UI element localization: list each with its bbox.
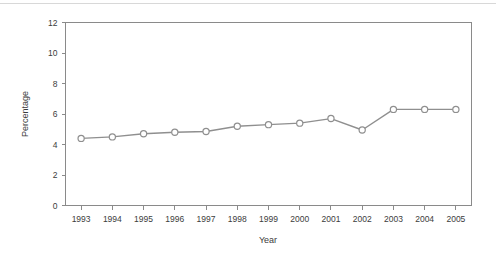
- y-tick-label: 2: [53, 170, 58, 180]
- x-tick-label: 2003: [384, 214, 403, 224]
- x-tick-label: 1994: [103, 214, 122, 224]
- y-tick-label: 6: [53, 109, 58, 119]
- y-tick-label: 0: [53, 201, 58, 211]
- y-tick-label: 4: [53, 140, 58, 150]
- plot-frame: [66, 23, 472, 206]
- line-chart-figure: 024681012 199319941995199619971998199920…: [0, 0, 496, 257]
- y-tick-label: 8: [53, 79, 58, 89]
- data-point-marker: [265, 122, 271, 128]
- data-point-marker: [203, 128, 209, 134]
- x-tick-label: 2000: [290, 214, 309, 224]
- x-axis-title: Year: [259, 235, 277, 245]
- x-tick-label: 1993: [72, 214, 91, 224]
- data-point-marker: [297, 120, 303, 126]
- data-point-marker: [328, 115, 334, 121]
- chart-canvas: 024681012 199319941995199619971998199920…: [0, 0, 496, 257]
- x-tick-label: 1996: [165, 214, 184, 224]
- data-point-marker: [359, 127, 365, 133]
- y-axis-ticks: 024681012: [48, 18, 65, 211]
- x-tick-label: 2005: [446, 214, 465, 224]
- data-point-marker: [172, 129, 178, 135]
- y-tick-label: 10: [48, 48, 58, 58]
- y-tick-label: 12: [48, 18, 58, 28]
- data-point-marker: [78, 135, 84, 141]
- series-markers: [78, 106, 459, 141]
- data-point-marker: [234, 123, 240, 129]
- x-tick-label: 2002: [353, 214, 372, 224]
- x-tick-label: 1998: [228, 214, 247, 224]
- x-axis-ticks: 1993199419951996199719981999200020012002…: [72, 206, 466, 224]
- data-point-marker: [109, 134, 115, 140]
- data-point-marker: [453, 106, 459, 112]
- data-point-marker: [422, 106, 428, 112]
- x-tick-label: 1999: [259, 214, 278, 224]
- data-point-marker: [140, 131, 146, 137]
- data-point-marker: [390, 106, 396, 112]
- x-tick-label: 1997: [197, 214, 216, 224]
- x-tick-label: 2001: [322, 214, 341, 224]
- x-tick-label: 1995: [134, 214, 153, 224]
- x-tick-label: 2004: [415, 214, 434, 224]
- y-axis-title: Percentage: [20, 91, 30, 137]
